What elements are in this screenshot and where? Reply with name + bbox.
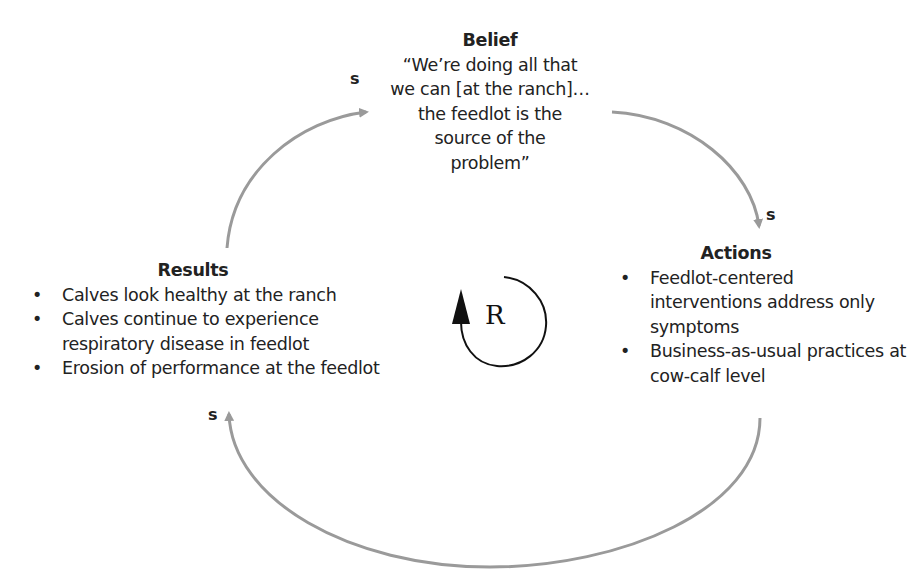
polarity-results-belief: s xyxy=(350,70,360,88)
actions-item: Feedlot-centered interventions address o… xyxy=(616,266,875,340)
results-item: Calves look healthy at the ranch xyxy=(28,283,398,308)
belief-node: Belief “We’re doing all that we can [at … xyxy=(370,28,610,175)
belief-quote-line: “We’re doing all that xyxy=(370,53,610,78)
actions-item: Business-as-usual practices at cow-calf … xyxy=(616,339,919,388)
causal-loop-diagram: R s s s Belief “We’re doing all that we … xyxy=(0,0,919,578)
loop-type-label: R xyxy=(485,300,505,330)
actions-list: Feedlot-centered interventions address o… xyxy=(616,266,916,389)
polarity-belief-actions: s xyxy=(766,206,776,224)
arrow-belief-to-actions xyxy=(612,112,759,226)
results-title: Results xyxy=(28,258,358,283)
polarity-actions-results: s xyxy=(208,406,218,424)
arrow-results-to-belief xyxy=(227,112,366,248)
belief-quote-line: we can [at the ranch]… xyxy=(370,77,610,102)
results-list: Calves look healthy at the ranch Calves … xyxy=(28,283,398,381)
results-item: Erosion of performance at the feedlot xyxy=(28,356,398,381)
actions-title: Actions xyxy=(616,241,856,266)
actions-node: Actions Feedlot-centered interventions a… xyxy=(616,241,916,388)
arrow-actions-to-results xyxy=(229,414,760,567)
results-node: Results Calves look healthy at the ranch… xyxy=(28,258,398,381)
belief-title: Belief xyxy=(370,28,610,53)
belief-quote-line: the feedlot is the xyxy=(370,102,610,127)
belief-quote-line: source of the xyxy=(370,126,610,151)
belief-quote-line: problem” xyxy=(370,151,610,176)
results-item: Calves continue to experience respirator… xyxy=(28,307,352,356)
